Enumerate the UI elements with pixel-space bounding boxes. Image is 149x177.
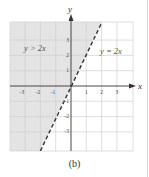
figure-caption: (b) xyxy=(0,158,149,169)
x-tick-label: 1 xyxy=(85,89,88,95)
x-tick-label: 2 xyxy=(100,89,103,95)
region-label: y > 2x xyxy=(23,43,46,53)
y-tick-label: 1 xyxy=(66,67,69,73)
y-tick-label: -2 xyxy=(64,113,69,119)
y-axis-arrow-icon xyxy=(69,14,74,21)
line-label: y = 2x xyxy=(99,46,122,56)
x-axis-label: x xyxy=(137,81,142,91)
x-axis-arrow-icon xyxy=(129,84,136,89)
x-tick-label: -2 xyxy=(36,89,41,95)
y-tick-label: -1 xyxy=(64,98,69,104)
y-tick-label: 3 xyxy=(66,37,69,43)
x-tick-label: -3 xyxy=(20,89,25,95)
y-axis-label: y xyxy=(67,4,72,14)
graph: x y -3 -2 -1 1 2 3 3 2 1 -1 -2 -3 y > 2x… xyxy=(0,0,149,177)
y-tick-label: 2 xyxy=(66,52,69,58)
x-tick-label: 3 xyxy=(116,89,119,95)
y-tick-label: -3 xyxy=(64,128,69,134)
x-tick-label: -1 xyxy=(51,89,56,95)
